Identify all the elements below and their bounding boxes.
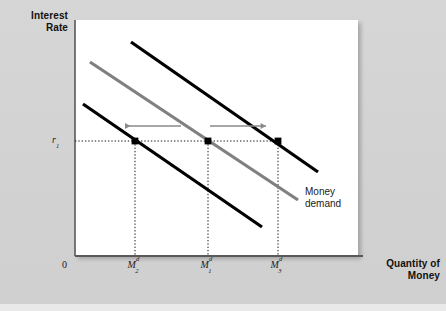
plot-panel: [75, 20, 358, 256]
y-tick-sub: 1: [56, 142, 59, 149]
x-tick-sup: d: [279, 255, 282, 262]
x-tick-label-m3d: Md3: [271, 259, 286, 270]
y-axis-title-line2: Rate: [46, 22, 68, 33]
x-axis-title: Quantity of Money: [360, 258, 440, 281]
x-tick-sub: 2: [135, 267, 138, 274]
y-axis-title: Interest Rate: [8, 10, 68, 33]
x-tick-sub: 3: [278, 267, 281, 274]
y-tick-label-r1: r1: [52, 134, 59, 145]
money-demand-caption: Money demand: [305, 186, 365, 210]
x-tick-label-m2d: Md2: [128, 259, 143, 270]
y-axis-title-line1: Interest: [31, 10, 68, 21]
figure-root: Interest Rate Quantity of Money 0 r1 Mon…: [0, 0, 446, 311]
money-demand-caption-line2: demand: [305, 198, 341, 209]
x-axis-title-line2: Money: [408, 270, 440, 281]
x-tick-sub: 1: [208, 267, 211, 274]
origin-label: 0: [62, 259, 67, 270]
money-demand-caption-line1: Money: [305, 186, 335, 197]
x-tick-sup: d: [136, 255, 139, 262]
x-tick-sup: d: [209, 255, 212, 262]
x-axis-title-line1: Quantity of: [386, 258, 440, 269]
x-tick-label-m1d: Md1: [201, 259, 216, 270]
page-bottom-edge: [0, 304, 446, 311]
